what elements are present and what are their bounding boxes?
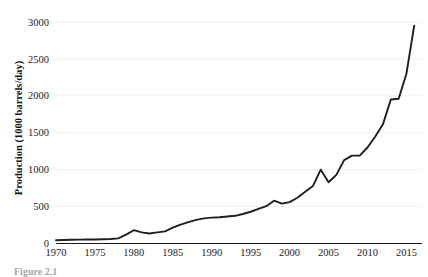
x-tick-1985: 1985: [162, 247, 183, 258]
x-tick-2010: 2010: [357, 247, 378, 258]
y-axis-title: Production (1000 barrels/day): [13, 60, 25, 195]
x-tick-2000: 2000: [279, 247, 300, 258]
y-axis-tick-labels: 050010001500200025003000: [28, 17, 49, 250]
y-tick-3000: 3000: [28, 17, 49, 28]
x-tick-2005: 2005: [318, 247, 339, 258]
y-tick-1500: 1500: [28, 127, 49, 138]
y-tick-2000: 2000: [28, 90, 49, 101]
y-tick-2500: 2500: [28, 54, 49, 65]
gridlines: [56, 22, 422, 207]
x-axis-tick-labels: 1970197519801985199019952000200520102015: [46, 247, 417, 258]
x-tick-1980: 1980: [123, 247, 144, 258]
figure-caption-text: Figure 2.1: [14, 267, 214, 277]
x-tick-1970: 1970: [46, 247, 67, 258]
figure-caption: Figure 2.1: [14, 267, 214, 277]
x-tick-1990: 1990: [201, 247, 222, 258]
x-tick-1995: 1995: [240, 247, 261, 258]
figure-root: 050010001500200025003000 197019751980198…: [0, 0, 428, 277]
y-tick-1000: 1000: [28, 164, 49, 175]
x-tick-2015: 2015: [396, 247, 417, 258]
production-line-chart: 050010001500200025003000 197019751980198…: [0, 0, 428, 277]
x-tick-1975: 1975: [84, 247, 105, 258]
y-tick-500: 500: [33, 201, 49, 212]
